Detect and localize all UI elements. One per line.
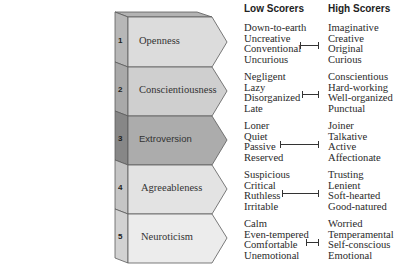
low-adjective: Down-to-earth (244, 23, 306, 34)
high-adjective: Good-natured (328, 202, 387, 213)
high-adjective: Curious (328, 55, 379, 66)
high-scorers-header: High Scorers (328, 3, 390, 14)
high-scorers-list-openness: Imaginative Creative Original Curious (328, 23, 379, 65)
low-scorers-list-extroversion: Loner Quiet Passive Reserved (244, 121, 283, 163)
high-adjective: Imaginative (328, 23, 379, 34)
low-scorers-list-neuroticism: Calm Even-tempered Comfortable Unemotion… (244, 219, 309, 261)
low-adjective: Reserved (244, 153, 283, 164)
high-adjective: Emotional (328, 251, 394, 262)
trait-number-1: 1 (118, 36, 122, 45)
range-bracket-openness (300, 42, 319, 49)
high-adjective: Joiner (328, 121, 381, 132)
trait-name-conscientiousness: Conscientiousness (139, 84, 217, 95)
trait-number-3: 3 (118, 134, 122, 143)
high-adjective: Worried (328, 219, 394, 230)
range-bracket-neuroticism (306, 239, 319, 246)
high-adjective: Trusting (328, 170, 387, 181)
range-bracket-extroversion (280, 141, 319, 148)
trait-name-neuroticism: Neuroticism (141, 231, 193, 242)
high-adjective: Conscientious (328, 72, 393, 83)
low-scorers-header: Low Scorers (244, 3, 304, 14)
low-adjective: Negligent (244, 72, 300, 83)
trait-name-openness: Openness (139, 35, 180, 46)
trait-number-2: 2 (118, 85, 122, 94)
low-adjective: Suspicious (244, 170, 290, 181)
low-scorers-list-conscientiousness: Negligent Lazy Disorganized Late (244, 72, 300, 114)
range-bracket-agreeableness (282, 190, 319, 197)
low-adjective: Late (244, 104, 300, 115)
high-scorers-list-agreeableness: Trusting Lenient Soft-hearted Good-natur… (328, 170, 387, 212)
trait-number-4: 4 (118, 183, 122, 192)
low-scorers-list-openness: Down-to-earth Uncreative Conventional Un… (244, 23, 306, 65)
trait-name-extroversion: Extroversion (139, 133, 192, 144)
trait-name-agreeableness: Agreeableness (141, 182, 202, 193)
high-adjective: Punctual (328, 104, 393, 115)
high-adjective: Affectionate (328, 153, 381, 164)
range-bracket-conscientiousness (302, 91, 319, 98)
high-scorers-list-extroversion: Joiner Talkative Active Affectionate (328, 121, 381, 163)
trait-number-5: 5 (118, 232, 122, 241)
low-adjective: Unemotional (244, 251, 309, 262)
low-adjective: Uncurious (244, 55, 306, 66)
low-adjective: Calm (244, 219, 309, 230)
low-adjective: Irritable (244, 202, 290, 213)
low-adjective: Loner (244, 121, 283, 132)
high-scorers-list-conscientiousness: Conscientious Hard-working Well-organize… (328, 72, 393, 114)
high-scorers-list-neuroticism: Worried Temperamental Self-conscious Emo… (328, 219, 394, 261)
block-top-face (115, 12, 212, 17)
